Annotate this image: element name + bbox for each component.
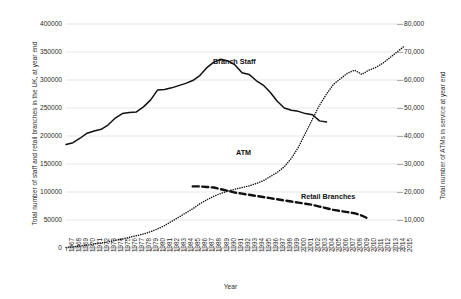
x-axis-tick-mark (249, 248, 250, 251)
x-axis-tick-mark (94, 248, 95, 251)
x-axis-tick-mark (256, 248, 257, 251)
series-line-branch-staff (66, 59, 327, 144)
x-axis-tick-mark (390, 248, 391, 251)
x-axis-tick-mark (404, 248, 405, 251)
series-line-atm (66, 46, 404, 247)
x-tick-label: 2015 (407, 238, 413, 252)
series-paths (66, 46, 404, 247)
x-axis-tick-mark (66, 248, 67, 251)
x-axis-tick-mark (221, 248, 222, 251)
x-axis-tick-mark (235, 248, 236, 251)
x-axis-tick-mark (73, 248, 74, 251)
x-axis-tick-mark (242, 248, 243, 251)
x-axis-tick-mark (397, 248, 398, 251)
x-axis-tick-mark (80, 248, 81, 251)
series-label-retail-branches: Retail Branches (301, 192, 355, 201)
x-axis-tick-mark (87, 248, 88, 251)
chart-container: Total number of staff and retail branche… (0, 0, 461, 299)
series-label-branch-staff: Branch Staff (213, 57, 256, 66)
x-axis-tick-mark (263, 248, 264, 251)
series-label-atm: ATM (236, 148, 251, 157)
x-axis-tick-mark (228, 248, 229, 251)
